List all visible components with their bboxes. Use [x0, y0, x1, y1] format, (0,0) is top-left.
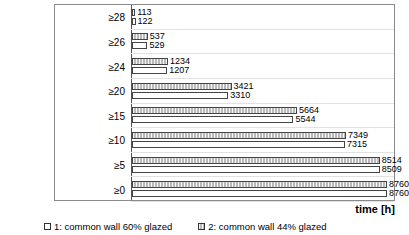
bar-row: ≥1556645544: [55, 104, 394, 129]
bar-item: 8760: [132, 181, 392, 189]
bar-item: 8509: [132, 165, 392, 173]
bar-series-2: [132, 132, 346, 139]
bar-row: ≥087608760: [55, 177, 394, 202]
bar-item: 122: [132, 17, 392, 25]
bar-series-1: [132, 18, 136, 25]
legend-swatch-2: [198, 223, 205, 230]
bar-row: ≥1073497315: [55, 128, 394, 153]
bar-item: 5664: [132, 107, 392, 115]
bar-series-1: [132, 190, 387, 197]
gridline: [131, 201, 394, 202]
bar-group: 537529: [132, 33, 392, 51]
category-label: ≥10: [55, 135, 125, 146]
bar-group: 34213310: [132, 82, 392, 100]
bar-series-2: [132, 107, 297, 114]
bar-value-label: 8509: [382, 165, 402, 174]
bar-value-label: 3310: [230, 91, 250, 100]
bar-row: ≥585148509: [55, 153, 394, 178]
plot-area: ≥28113122≥26537529≥2412341207≥2034213310…: [54, 4, 395, 201]
bar-series-1: [132, 92, 228, 99]
bar-series-1: [132, 141, 345, 148]
bar-value-label: 7315: [347, 140, 367, 149]
legend-label: 2: common wall 44% glazed: [208, 221, 326, 232]
category-label: ≥15: [55, 110, 125, 121]
bar-series-1: [132, 42, 147, 49]
bar-series-2: [132, 33, 148, 40]
chart-legend: 1: common wall 60% glazed2: common wall …: [44, 221, 327, 232]
bar-rows: ≥28113122≥26537529≥2412341207≥2034213310…: [55, 5, 394, 200]
bar-series-1: [132, 116, 293, 123]
bar-value-label: 5544: [295, 115, 315, 124]
category-label: ≥28: [55, 12, 125, 23]
bar-row: ≥2034213310: [55, 79, 394, 104]
bar-item: 529: [132, 42, 392, 50]
category-label: ≥5: [55, 160, 125, 171]
x-axis-title: time [h]: [355, 203, 395, 215]
bar-series-1: [132, 67, 167, 74]
bar-group: 12341207: [132, 58, 392, 76]
bar-series-2: [132, 181, 387, 188]
category-label: ≥20: [55, 86, 125, 97]
bar-series-2: [132, 83, 232, 90]
bar-item: 113: [132, 8, 392, 16]
bar-value-label: 529: [149, 41, 164, 50]
bar-item: 1234: [132, 58, 392, 66]
bar-row: ≥2412341207: [55, 54, 394, 79]
legend-item-2: 2: common wall 44% glazed: [198, 221, 326, 232]
bar-series-2: [132, 157, 380, 164]
bar-item: 3421: [132, 82, 392, 90]
bar-item: 7349: [132, 131, 392, 139]
bar-value-label: 8760: [389, 189, 409, 198]
bar-item: 7315: [132, 140, 392, 148]
bar-value-label: 1207: [169, 66, 189, 75]
legend-swatch-1: [44, 223, 51, 230]
category-label: ≥0: [55, 184, 125, 195]
bar-value-label: 122: [138, 17, 153, 26]
bar-series-1: [132, 166, 380, 173]
legend-label: 1: common wall 60% glazed: [54, 221, 172, 232]
bar-item: 5544: [132, 116, 392, 124]
bar-item: 1207: [132, 67, 392, 75]
bar-group: 113122: [132, 8, 392, 26]
bar-group: 56645544: [132, 107, 392, 125]
bar-series-2: [132, 9, 135, 16]
bar-group: 87608760: [132, 181, 392, 199]
bar-group: 73497315: [132, 131, 392, 149]
bar-item: 8514: [132, 156, 392, 164]
bar-item: 8760: [132, 190, 392, 198]
bar-row: ≥28113122: [55, 5, 394, 30]
category-label: ≥26: [55, 36, 125, 47]
bar-group: 85148509: [132, 156, 392, 174]
bar-series-2: [132, 58, 168, 65]
bar-item: 3310: [132, 91, 392, 99]
bar-item: 537: [132, 33, 392, 41]
category-label: ≥24: [55, 61, 125, 72]
bar-row: ≥26537529: [55, 30, 394, 55]
legend-item-1: 1: common wall 60% glazed: [44, 221, 172, 232]
